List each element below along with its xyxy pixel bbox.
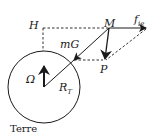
diagram-drawing [0, 0, 154, 137]
label-fie: fie [134, 14, 144, 25]
label-earth: Terre [10, 124, 37, 134]
label-h: H [29, 20, 39, 31]
label-rt: RT [59, 82, 72, 93]
label-mg: mG [60, 39, 79, 50]
p-arrow [105, 28, 109, 59]
diagram-canvas: H M fie mG P Ω RT Terre [0, 0, 154, 137]
label-p: P [100, 64, 107, 75]
dashed-line-fie-p [106, 29, 146, 60]
mg-arrow [74, 28, 109, 60]
label-omega: Ω [26, 74, 35, 85]
label-rt-sub: T [67, 88, 72, 96]
label-fie-sub: ie [138, 20, 144, 28]
label-m: M [104, 18, 115, 29]
